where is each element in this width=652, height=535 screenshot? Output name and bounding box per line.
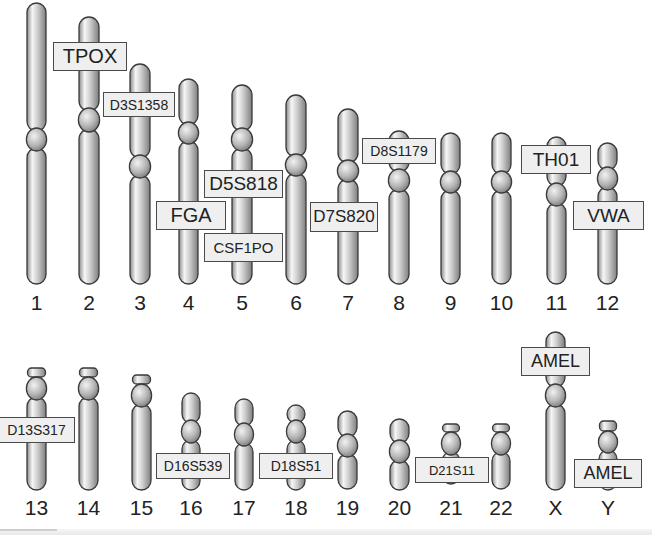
chromosome-20 xyxy=(389,419,409,490)
chromosome-arm xyxy=(338,109,358,163)
chromosome-22 xyxy=(491,424,510,489)
chromosome-14 xyxy=(78,368,98,490)
chromosome-7 xyxy=(337,109,358,284)
chromosome-6 xyxy=(285,95,306,284)
chromosome-number-15: 15 xyxy=(122,497,162,519)
chromosome-arm xyxy=(389,189,409,284)
chromosome-19 xyxy=(337,411,357,489)
chromosome-17 xyxy=(234,399,253,490)
chromosome-arm xyxy=(130,175,150,284)
chromosome-number-Y: Y xyxy=(588,497,628,519)
chromosome-arm xyxy=(182,393,200,423)
chromosome-arm xyxy=(492,190,511,284)
satellite xyxy=(28,368,46,377)
centromere xyxy=(26,128,46,151)
marker-label-vwa-chr12: VWA xyxy=(573,201,644,230)
chromosome-number-19: 19 xyxy=(328,497,368,519)
chromosome-arm xyxy=(235,399,253,426)
centromere xyxy=(491,432,510,455)
chromosome-number-X: X xyxy=(536,497,576,519)
centromere xyxy=(234,423,253,446)
chromosome-number-5: 5 xyxy=(222,292,262,314)
centromere xyxy=(286,420,305,443)
satellite xyxy=(80,368,98,377)
chromosome-15 xyxy=(131,375,151,490)
chromosome-arm xyxy=(492,133,511,174)
centromere xyxy=(389,440,409,463)
chromosome-arm xyxy=(547,203,566,284)
chromosome-arm xyxy=(441,190,460,284)
chromosome-arm xyxy=(286,173,306,284)
marker-label-d3s1358-chr3: D3S1358 xyxy=(103,92,175,117)
marker-label-d21s11-chr21: D21S11 xyxy=(415,457,489,483)
centromere xyxy=(231,128,252,151)
chromosome-number-4: 4 xyxy=(169,292,209,314)
centromere xyxy=(545,384,565,407)
chromosome-number-20: 20 xyxy=(380,497,420,519)
centromere xyxy=(337,160,358,182)
satellite xyxy=(133,375,151,384)
satellite xyxy=(443,424,460,432)
strip-tab xyxy=(0,529,57,531)
chromosome-arm xyxy=(27,3,46,131)
chromosome-number-12: 12 xyxy=(588,292,628,314)
satellite xyxy=(600,421,617,431)
chromosome-number-8: 8 xyxy=(379,292,419,314)
centromere xyxy=(129,155,150,178)
centromere xyxy=(598,431,617,453)
marker-label-csf1po-chr5: CSF1PO xyxy=(204,233,283,262)
chromosome-arm xyxy=(27,148,46,284)
chromosome-number-22: 22 xyxy=(481,497,521,519)
chromosome-number-21: 21 xyxy=(431,497,471,519)
centromere xyxy=(181,420,200,443)
chromosome-9 xyxy=(440,133,460,284)
chromosome-10 xyxy=(491,133,511,284)
marker-label-amel-chry: AMEL xyxy=(574,459,642,488)
centromere xyxy=(546,183,566,206)
chromosome-number-10: 10 xyxy=(482,292,522,314)
chromosome-arm xyxy=(286,95,306,157)
chromosome-number-17: 17 xyxy=(224,497,264,519)
chromosome-number-9: 9 xyxy=(431,292,471,314)
centromere xyxy=(337,434,357,457)
marker-label-th01-chr11: TH01 xyxy=(521,145,591,174)
chromosome-number-18: 18 xyxy=(276,497,316,519)
chromosome-number-11: 11 xyxy=(537,292,577,314)
chromosome-number-16: 16 xyxy=(171,497,211,519)
chromosome-number-1: 1 xyxy=(17,292,57,314)
karyotype-diagram: TPOXD3S1358D5S818FGACSF1POD7S820D8S1179T… xyxy=(0,0,652,535)
marker-label-d16s539-chr16: D16S539 xyxy=(156,453,230,479)
chromosome-number-14: 14 xyxy=(69,497,109,519)
chromosome-arm xyxy=(79,397,98,490)
marker-label-d5s818-chr5: D5S818 xyxy=(204,170,283,198)
chromosome-arm xyxy=(79,129,99,284)
chromosome-number-2: 2 xyxy=(69,292,109,314)
centromere xyxy=(78,108,99,132)
marker-label-d8s1179-chr8: D8S1179 xyxy=(362,138,436,164)
chromosome-arm xyxy=(390,460,409,490)
chromosome-number-7: 7 xyxy=(328,292,368,314)
marker-label-d7s820-chr7: D7S820 xyxy=(310,202,378,232)
marker-label-d18s51-chr18: D18S51 xyxy=(259,453,333,479)
chromosome-arm xyxy=(546,404,565,490)
chromosome-arm xyxy=(27,397,46,490)
chromosome-arm xyxy=(598,143,617,170)
chromosome-number-3: 3 xyxy=(120,292,160,314)
satellite xyxy=(493,424,510,432)
chromosome-4 xyxy=(178,79,198,284)
marker-label-tpox-chr2: TPOX xyxy=(53,42,127,71)
centromere xyxy=(178,122,198,144)
chromosome-arm xyxy=(232,85,252,131)
chromosome-arm xyxy=(232,148,252,284)
centromere xyxy=(440,171,460,193)
chromosome-arm xyxy=(492,452,510,489)
centromere xyxy=(491,171,511,193)
marker-label-d13s317-chr13: D13S317 xyxy=(0,417,75,443)
chromosome-arm xyxy=(441,133,460,174)
centromere xyxy=(388,169,409,192)
marker-label-amel-chrx: AMEL xyxy=(521,347,590,376)
chromosome-number-13: 13 xyxy=(17,497,57,519)
chromosome-arm xyxy=(338,454,357,489)
centromere xyxy=(131,384,151,407)
chromosome-1 xyxy=(26,3,46,284)
